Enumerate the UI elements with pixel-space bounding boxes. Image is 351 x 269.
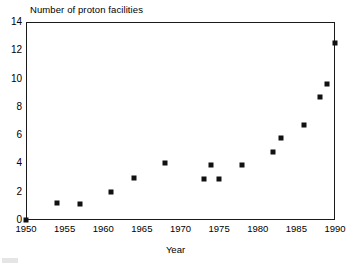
data-point bbox=[201, 176, 206, 181]
data-point bbox=[325, 82, 330, 87]
x-axis-tick-label: 1975 bbox=[209, 224, 230, 234]
scatter-chart-figure: Number of proton facilities 02468101214 … bbox=[0, 0, 351, 269]
x-axis-tick-label: 1950 bbox=[15, 224, 36, 234]
data-point bbox=[271, 150, 276, 155]
x-axis-line bbox=[26, 219, 335, 220]
y-axis-tick-label: 4 bbox=[16, 158, 22, 168]
data-point bbox=[132, 175, 137, 180]
data-point bbox=[54, 201, 59, 206]
data-point bbox=[108, 189, 113, 194]
data-point bbox=[24, 218, 29, 223]
y-axis-tick-label: 8 bbox=[16, 102, 22, 112]
y-axis-tick-label: 2 bbox=[16, 187, 22, 197]
scan-artifact bbox=[2, 258, 18, 263]
y-axis-tick-label: 10 bbox=[11, 74, 22, 84]
x-axis-tick-label: 1985 bbox=[286, 224, 307, 234]
y-axis-tick-label: 14 bbox=[11, 17, 22, 27]
plot-area bbox=[26, 22, 335, 220]
x-axis-tick-label: 1965 bbox=[131, 224, 152, 234]
data-point bbox=[163, 161, 168, 166]
data-point bbox=[240, 162, 245, 167]
x-axis-tick-label: 1980 bbox=[247, 224, 268, 234]
y-axis-line bbox=[26, 22, 27, 220]
chart-title: Number of proton facilities bbox=[30, 4, 143, 15]
plot-frame-top bbox=[26, 22, 335, 23]
data-point bbox=[302, 123, 307, 128]
data-point bbox=[278, 135, 283, 140]
y-axis-tick-label: 6 bbox=[16, 130, 22, 140]
data-point bbox=[217, 176, 222, 181]
x-axis-title: Year bbox=[0, 244, 351, 255]
x-axis-tick-label: 1970 bbox=[170, 224, 191, 234]
x-axis-tick-label: 1960 bbox=[93, 224, 114, 234]
data-point bbox=[209, 162, 214, 167]
data-point bbox=[317, 94, 322, 99]
plot-frame-right bbox=[334, 22, 335, 220]
data-point bbox=[333, 41, 338, 46]
y-axis-tick-label: 12 bbox=[11, 45, 22, 55]
data-point bbox=[78, 202, 83, 207]
x-axis-tick-label: 1955 bbox=[54, 224, 75, 234]
x-axis-tick-label: 1990 bbox=[324, 224, 345, 234]
